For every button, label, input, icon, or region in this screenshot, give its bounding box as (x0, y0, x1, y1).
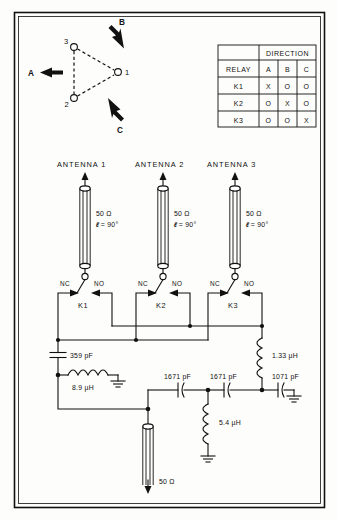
relay-k3-no-wire (250, 293, 262, 326)
antenna-1-arrow-icon (82, 172, 89, 180)
cap-359-label: 359 pF (70, 352, 93, 360)
table-cell-relay-k1: K1 (234, 83, 244, 90)
antenna-2-length-value: = 90° (179, 221, 197, 228)
arrow-a-glyph (40, 68, 63, 78)
antenna-3-bottom-cap (230, 263, 240, 268)
antenna-3-length-value: = 90° (251, 221, 269, 228)
table-cell-k1-c: O (304, 83, 310, 90)
table-cell-k3-c: X (304, 117, 309, 124)
relay-k1-armature (77, 280, 85, 294)
relay-k3-label: K3 (228, 301, 238, 310)
arrow-c-label: C (117, 126, 123, 135)
antenna-2-arrow-icon (160, 172, 167, 180)
relay-k3-nc-wire (208, 293, 220, 340)
cap-1071-label: 1071 pF (272, 373, 299, 381)
relay-k3-nc-label: NC (210, 280, 220, 287)
relay-k3: NC NO K3 (208, 280, 262, 341)
ind-133-label: 1.33 µH (272, 352, 298, 360)
triangle-edge-2-1 (78, 75, 115, 96)
antenna-1-label: ANTENNA 1 (57, 160, 106, 169)
antenna-2: ANTENNA 2 50 Ω ℓ= 90° (135, 160, 196, 280)
table-col-header-c: C (304, 66, 310, 73)
feedline-arrow-icon (145, 486, 152, 494)
relay-k2-no-wire (178, 293, 190, 326)
antenna-2-length: ℓ= 90° (173, 221, 196, 228)
table-group-header: DIRECTION (266, 50, 309, 57)
element-node-3 (71, 44, 78, 51)
arrow-b-glyph (109, 25, 125, 49)
antenna-3-arrow-icon (232, 172, 239, 180)
relay-k2-label: K2 (156, 301, 166, 310)
antenna-3-common-terminal (232, 273, 238, 279)
relay-k1-no-wire (100, 293, 112, 326)
network-right-branch: 1.33 µH 1671 pF 1671 pF (148, 326, 301, 462)
antenna-1-length-value: = 90° (101, 221, 119, 228)
antenna-1-length-symbol: ℓ (95, 221, 100, 228)
relay-k2-nc-contact (148, 290, 157, 297)
direction-arrow-a: A (28, 68, 63, 79)
ground-symbol-ind89 (111, 381, 125, 387)
ind-89-label: 8.9 µH (72, 384, 94, 392)
table-cell-k2-c: O (304, 100, 310, 107)
antenna-2-label: ANTENNA 2 (135, 160, 184, 169)
pattern-direction-diagram: 3 2 1 A B C (28, 18, 129, 135)
element-node-2-label: 2 (65, 100, 69, 109)
feedline-impedance-label: 50 Ω (159, 478, 175, 485)
relay-k1-nc-label: NC (60, 280, 70, 287)
antenna-1-bottom-cap (80, 263, 90, 268)
element-node-2 (71, 95, 78, 102)
relay-k1-nc-wire (58, 293, 70, 340)
antenna-3-length-symbol: ℓ (245, 221, 250, 228)
relay-k2-nc-label: NC (138, 280, 148, 287)
ind-54-coil (203, 404, 208, 444)
relay-k1-label: K1 (78, 301, 88, 310)
interconnect-buses (56, 324, 264, 342)
antenna-2-bottom-cap (158, 263, 168, 268)
antenna-3-length: ℓ= 90° (245, 221, 268, 228)
ground-symbol-ind54 (201, 456, 215, 462)
table-cell-k3-b: O (285, 117, 291, 124)
relay-k1-no-contact (91, 290, 100, 297)
figure-inner-border (19, 17, 321, 504)
ind-54-label: 5.4 µH (219, 419, 241, 427)
relay-k2-no-label: NO (172, 280, 182, 287)
main-feedline: 50 Ω (143, 390, 175, 494)
antenna-2-common-terminal (160, 273, 166, 279)
relay-k3-no-contact (241, 290, 250, 297)
table-cell-k2-b: X (285, 100, 290, 107)
table-row: K1 X O O (234, 83, 310, 90)
antenna-2-length-symbol: ℓ (173, 221, 178, 228)
antenna-2-top-cap (158, 186, 168, 191)
ind-89-coil (68, 370, 108, 375)
relay-k2-armature (155, 280, 163, 294)
table-col-header-a: A (266, 66, 271, 73)
table-corner-header: RELAY (226, 66, 251, 73)
relay-k1: NC NO K1 (58, 280, 112, 341)
table-col-header-b: B (285, 66, 290, 73)
relay-k1-no-label: NO (94, 280, 104, 287)
element-node-1 (115, 69, 122, 76)
cap-1671b-label: 1671 pF (210, 373, 237, 381)
junction-bus-upper-k2 (188, 324, 192, 328)
direction-arrow-b: B (109, 18, 126, 49)
relay-k3-armature (227, 280, 235, 294)
arrow-c-glyph (108, 98, 124, 122)
antenna-1-length: ℓ= 90° (95, 221, 118, 228)
antenna-1-top-cap (80, 186, 90, 191)
cap-1671a-label: 1671 pF (164, 373, 191, 381)
relay-k1-nc-contact (70, 290, 79, 297)
schematic-diagram: 3 2 1 A B C (0, 0, 338, 520)
antenna-1-impedance: 50 Ω (96, 210, 112, 217)
antenna-2-impedance: 50 Ω (174, 210, 190, 217)
table-cell-relay-k2: K2 (234, 100, 244, 107)
relay-k2-nc-wire (136, 293, 148, 340)
element-node-3-label: 3 (64, 37, 68, 46)
table-cell-k2-a: O (266, 100, 272, 107)
relay-k3-no-label: NO (244, 280, 254, 287)
ind-133-coil (257, 338, 262, 378)
antenna-3-label: ANTENNA 3 (207, 160, 256, 169)
figure-root: 3 2 1 A B C (0, 0, 338, 520)
junction-bus-lower-k2 (134, 338, 138, 342)
triangle-edge-3-1 (78, 49, 115, 70)
relay-k2-no-contact (169, 290, 178, 297)
